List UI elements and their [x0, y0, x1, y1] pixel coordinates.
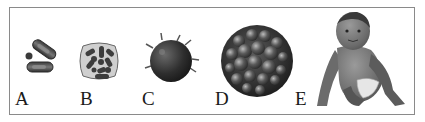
bacteria-icon — [20, 38, 62, 80]
panel-e-image — [313, 10, 413, 110]
cell-icon — [77, 40, 121, 82]
cell-ball-icon — [219, 23, 295, 99]
panel-c-label: C — [142, 89, 155, 108]
spiky-cell-icon — [140, 30, 202, 92]
panel-e-label: E — [295, 89, 307, 108]
panel-a-image — [20, 38, 62, 80]
panel-d-image — [219, 23, 295, 99]
panel-a-label: A — [15, 89, 29, 108]
panel-d-label: D — [215, 89, 229, 108]
panel-c-image — [140, 30, 202, 92]
panel-b-image — [77, 40, 121, 82]
panel-b-label: B — [80, 89, 93, 108]
baby-icon — [313, 10, 413, 110]
